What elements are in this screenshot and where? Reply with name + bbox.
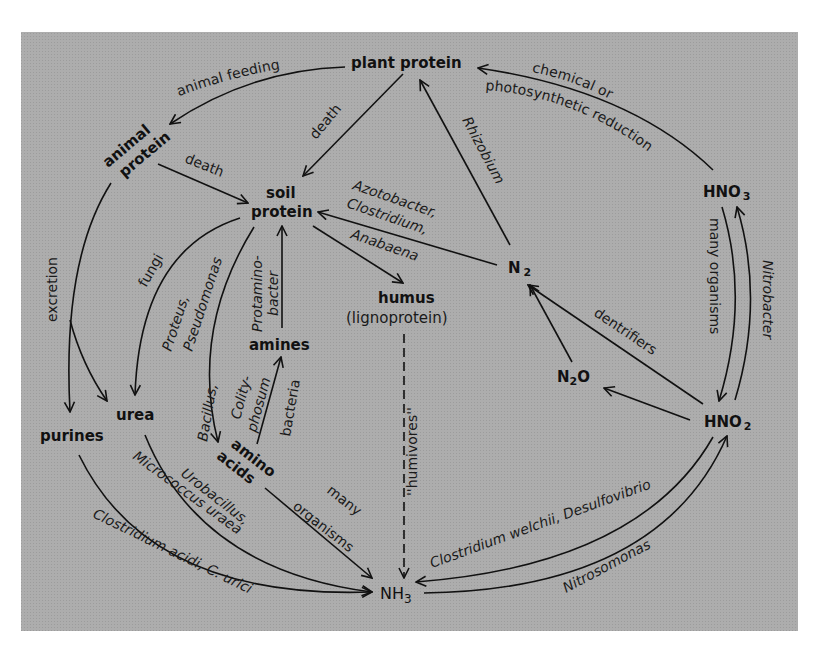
node-soil-protein-label: protein <box>251 203 313 221</box>
node-urea: urea <box>116 406 154 424</box>
node-soil-label: soil <box>266 184 296 202</box>
label-bacter: bacter <box>265 270 281 316</box>
label-nitrobacter: Nitrobacter <box>760 260 776 340</box>
label-excretion: excretion <box>44 257 60 322</box>
node-plant-protein: plant protein <box>351 54 462 72</box>
label-many-organisms-right: many organisms <box>707 218 723 334</box>
nitrogen-cycle-diagram: plant protein animal protein soil protei… <box>0 0 826 651</box>
label-protamino: Protamino- <box>249 255 265 332</box>
node-amines: amines <box>249 336 310 354</box>
node-purines: purines <box>40 427 104 445</box>
node-humus: humus <box>378 289 435 307</box>
label-humivores: ''humivores'' <box>404 407 420 496</box>
node-lignoprotein: (lignoprotein) <box>346 309 448 327</box>
